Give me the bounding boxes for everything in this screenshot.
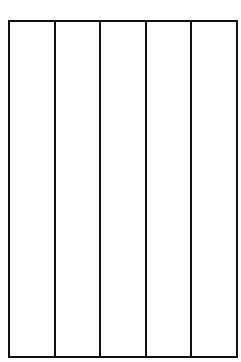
grid-column-3 [101,22,147,356]
grid-column-2 [56,22,102,356]
grid-column-4 [147,22,193,356]
grid-column-5 [192,22,236,356]
column-grid [8,20,238,358]
grid-column-1 [10,22,56,356]
